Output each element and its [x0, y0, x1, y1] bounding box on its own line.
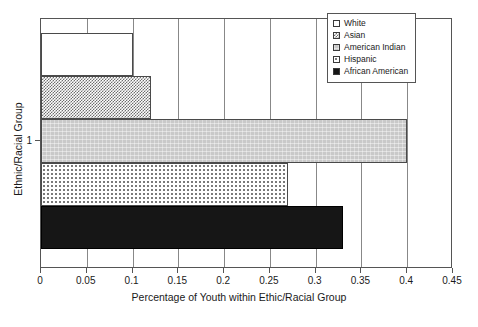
legend-item[interactable]: African American [333, 66, 410, 77]
x-tick-label: 0.15 [168, 275, 187, 286]
y-axis-title: Ethnic/Racial Group [12, 79, 24, 219]
legend-swatch-icon [333, 44, 340, 51]
x-tick-mark [360, 268, 361, 273]
x-tick-label: 0.1 [125, 275, 139, 286]
x-tick-label: 0.35 [351, 275, 370, 286]
legend-label: American Indian [344, 43, 405, 52]
legend-label: Hispanic [344, 55, 377, 64]
x-tick-label: 0.2 [216, 275, 230, 286]
legend-swatch-icon [333, 56, 340, 63]
x-tick-mark [315, 268, 316, 273]
y-tick-mark [35, 140, 40, 141]
x-tick-label: 0.45 [442, 275, 461, 286]
x-tick-label: 0.25 [259, 275, 278, 286]
legend-swatch-icon [333, 20, 340, 27]
legend-item[interactable]: American Indian [333, 42, 410, 53]
x-tick-mark [452, 268, 453, 273]
x-tick-mark [223, 268, 224, 273]
x-axis-title: Percentage of Youth within Ethic/Racial … [0, 291, 478, 303]
legend-item[interactable]: Asian [333, 30, 410, 41]
x-tick-label: 0.4 [399, 275, 413, 286]
x-tick-mark [132, 268, 133, 273]
legend-label: African American [344, 67, 408, 76]
x-tick-mark [406, 268, 407, 273]
x-tick-label: 0.3 [308, 275, 322, 286]
legend-label: Asian [344, 31, 365, 40]
legend-label: White [344, 19, 366, 28]
legend-item[interactable]: White [333, 18, 410, 29]
bar-asian [41, 76, 151, 119]
x-tick-label: 0 [37, 275, 43, 286]
legend-swatch-icon [333, 32, 340, 39]
x-tick-label: 0.05 [76, 275, 95, 286]
bar-african-american [41, 206, 343, 249]
x-tick-mark [269, 268, 270, 273]
x-tick-mark [86, 268, 87, 273]
x-tick-mark [40, 268, 41, 273]
legend-item[interactable]: Hispanic [333, 54, 410, 65]
x-tick-mark [177, 268, 178, 273]
legend: WhiteAsianAmerican IndianHispanicAfrican… [327, 13, 416, 83]
bar-hispanic [41, 163, 288, 206]
bar-american-indian [41, 119, 407, 162]
bar-chart: 00.050.10.150.20.250.30.350.40.45 1 Perc… [0, 0, 478, 327]
legend-swatch-icon [333, 68, 340, 75]
bar-white [41, 33, 133, 76]
